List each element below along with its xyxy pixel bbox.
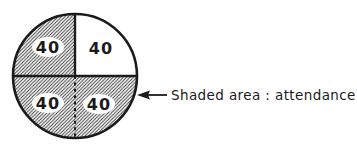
slice-value-bottom-left: 40 xyxy=(36,94,60,113)
annotation-arrow-icon xyxy=(137,91,167,100)
slice-value-bottom-right: 40 xyxy=(87,95,111,114)
annotation-caption: Shaded area : attendance xyxy=(171,87,356,103)
attendance-pie-diagram: 40 40 40 40 Shaded area : attendance xyxy=(0,0,357,149)
slice-value-top-right: 40 xyxy=(89,39,113,58)
slice-value-top-left: 40 xyxy=(36,38,60,57)
attendance-pie-figure: 40 40 40 40 Shaded area : attendance xyxy=(0,0,357,149)
